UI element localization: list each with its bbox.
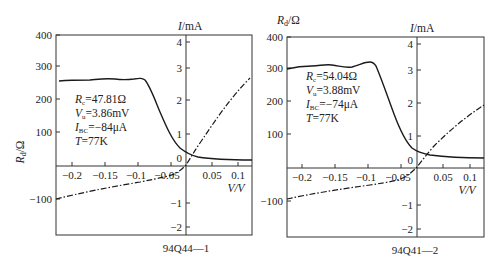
current-tick-4: 4: [177, 36, 183, 48]
y-left-tick-200: 200: [267, 95, 284, 107]
x-tick-0.1: 0.1: [231, 169, 245, 181]
x-tick-0.05: 0.05: [433, 171, 453, 183]
param-ibc: IBC=−74μA: [305, 98, 359, 112]
current-tick-1: 1: [177, 128, 183, 140]
current-ticks: [417, 44, 421, 229]
x-tick-neg0.1: −0.1: [126, 169, 146, 181]
x-tick-neg0.15: −0.15: [92, 169, 118, 181]
x-axis-title: V/V: [458, 184, 477, 196]
param-vu: Vu=3.88mV: [306, 84, 361, 98]
current-tick-0: 0: [408, 154, 414, 166]
x-tick-neg0.15: −0.15: [322, 171, 348, 183]
y-left-tick-100: 100: [36, 126, 53, 138]
current-tick-2: 2: [408, 97, 414, 109]
y-left-tick-400: 400: [267, 31, 284, 43]
caption-left: 94Q44—1: [163, 242, 209, 254]
rd-curve: [59, 78, 252, 160]
param-ibc: IBC=−84μA: [74, 121, 128, 135]
x-ticks: [72, 162, 238, 166]
current-tick-3: 3: [408, 64, 414, 76]
current-tick-4: 4: [408, 38, 414, 50]
param-t: T=77K: [306, 112, 339, 124]
current-tick-neg2: −2: [170, 221, 182, 233]
chart-94Q44-1: 400 300 200 100 −100 Rd/Ω 4 3 2 1 0 −1 −…: [14, 20, 252, 235]
x-tick-neg0.05: −0.05: [385, 171, 411, 183]
x-tick-neg0.1: −0.1: [356, 171, 376, 183]
plot-frame: [287, 37, 484, 237]
y-left-title: Rd/Ω: [14, 141, 28, 165]
parameter-box: Rc=54.04Ω Vu=3.88mV IBC=−74μA T=77K: [305, 70, 361, 124]
y-left-tick-400: 400: [36, 29, 53, 41]
y-left-title: Rd/Ω: [276, 14, 300, 28]
param-rc: Rc=47.81Ω: [74, 93, 126, 107]
left-y-ticks: [287, 37, 291, 201]
chart-94Q41-2: 400 300 200 100 −100 Rd/Ω 4 3 2 1 0 −1 −…: [260, 14, 484, 237]
current-tick-neg1: −1: [170, 197, 182, 209]
param-t: T=77K: [75, 135, 108, 147]
current-tick-1: 1: [408, 130, 414, 142]
y-left-tick-neg100: −100: [29, 193, 52, 205]
current-tick-neg2: −2: [401, 223, 413, 235]
x-tick-neg0.2: −0.2: [62, 169, 82, 181]
y-left-tick-neg100: −100: [260, 195, 283, 207]
x-tick-neg0.2: −0.2: [292, 171, 312, 183]
current-tick-0: 0: [177, 152, 183, 164]
y-left-tick-100: 100: [267, 128, 284, 140]
x-tick-neg0.05: −0.05: [154, 169, 180, 181]
x-tick-0.1: 0.1: [463, 171, 477, 183]
caption-right: 94Q41—2: [392, 244, 438, 256]
y-left-tick-200: 200: [36, 93, 53, 105]
current-ticks: [186, 42, 190, 227]
y-right-title: I/mA: [409, 22, 435, 34]
parameter-box: Rc=47.81Ω Vu=3.86mV IBC=−84μA T=77K: [74, 93, 130, 147]
param-rc: Rc=54.04Ω: [305, 70, 357, 84]
param-vu: Vu=3.86mV: [75, 107, 130, 121]
current-tick-neg1: −1: [401, 199, 413, 211]
left-y-ticks: [56, 35, 60, 199]
y-right-title: I/mA: [177, 20, 203, 32]
y-left-tick-300: 300: [36, 60, 53, 72]
y-left-tick-300: 300: [267, 62, 284, 74]
current-tick-2: 2: [177, 94, 183, 106]
figure: 400 300 200 100 −100 Rd/Ω 4 3 2 1 0 −1 −…: [0, 0, 496, 271]
current-tick-3: 3: [177, 62, 183, 74]
x-tick-0.05: 0.05: [202, 169, 222, 181]
x-ticks: [302, 164, 470, 168]
x-axis-title: V/V: [227, 182, 246, 194]
